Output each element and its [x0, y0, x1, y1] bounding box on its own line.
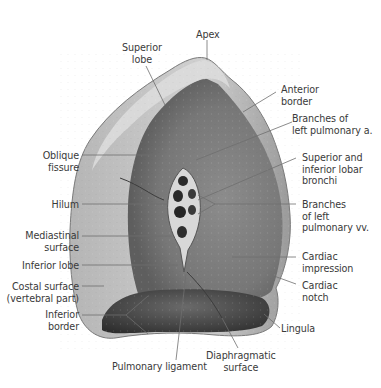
label-oblique-fissure: Oblique fissure: [43, 150, 79, 173]
label-branches-pulmonary-vv: Branches of left pulmonary vv.: [302, 199, 369, 234]
label-pulmonary-ligament: Pulmonary ligament: [112, 361, 207, 373]
label-lobar-bronchi: Superior and inferior lobar bronchi: [302, 152, 363, 187]
label-diaphragmatic-surface: Diaphragmatic surface: [206, 350, 276, 373]
label-inferior-lobe: Inferior lobe: [22, 260, 79, 272]
label-hilum: Hilum: [52, 199, 79, 211]
label-cardiac-impression: Cardiac impression: [302, 251, 353, 274]
label-superior-lobe: Superior lobe: [122, 42, 162, 65]
lung-diagram: Apex Superior lobe Anterior border Branc…: [0, 0, 381, 388]
label-apex: Apex: [196, 29, 220, 41]
label-cardiac-notch: Cardiac notch: [302, 280, 338, 303]
label-branches-pulmonary-a: Branches of left pulmonary a.: [292, 113, 373, 136]
label-costal-surface: Costal surface (vertebral part): [7, 281, 79, 304]
label-inferior-border: Inferior border: [45, 309, 79, 332]
label-lingula: Lingula: [281, 323, 315, 335]
label-anterior-border: Anterior border: [281, 84, 319, 107]
label-mediastinal-surface: Mediastinal surface: [25, 230, 79, 253]
